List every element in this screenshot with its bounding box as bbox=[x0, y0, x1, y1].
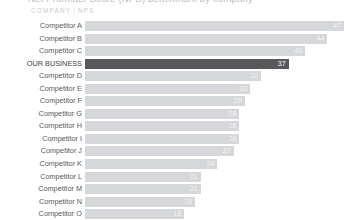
bar[interactable]: 24 bbox=[85, 159, 217, 169]
bar-row-label: Competitor K bbox=[0, 159, 85, 169]
bar[interactable]: 28 bbox=[85, 121, 239, 131]
bar-value-label: 21 bbox=[190, 184, 198, 194]
bar-row[interactable]: Competitor J27 bbox=[0, 146, 344, 156]
bar-value-label: 44 bbox=[316, 34, 324, 44]
bar-row[interactable]: Competitor B44 bbox=[0, 34, 344, 44]
bar-value-label: 18 bbox=[173, 209, 181, 219]
bar-highlight[interactable]: 37 bbox=[85, 59, 289, 69]
bar-value-label: 28 bbox=[228, 109, 236, 119]
bar[interactable]: 40 bbox=[85, 46, 305, 56]
bar-row[interactable]: Competitor I28 bbox=[0, 134, 344, 144]
nps-benchmark-chart: Net Promoter Score (NPS) benchmark by co… bbox=[0, 0, 344, 220]
bar-row[interactable]: Competitor A47 bbox=[0, 21, 344, 31]
column-header-company: COMPANY bbox=[31, 7, 71, 14]
bar[interactable]: 21 bbox=[85, 172, 201, 182]
bar[interactable]: 20 bbox=[85, 197, 195, 207]
bar-row-label: Competitor G bbox=[0, 109, 85, 119]
bar-row-label: Competitor N bbox=[0, 197, 85, 207]
bar-row-label: Competitor M bbox=[0, 184, 85, 194]
bar[interactable]: 30 bbox=[85, 84, 250, 94]
bar-track: 40 bbox=[85, 46, 344, 56]
bar-track: 21 bbox=[85, 172, 344, 182]
bar-track: 28 bbox=[85, 134, 344, 144]
bar[interactable]: 47 bbox=[85, 21, 344, 31]
bar[interactable]: 44 bbox=[85, 34, 327, 44]
bar-row-label: Competitor C bbox=[0, 46, 85, 56]
bar-row-label: Competitor F bbox=[0, 96, 85, 106]
bar-row-label: Competitor E bbox=[0, 84, 85, 94]
bar-value-label: 47 bbox=[333, 21, 341, 31]
bar-track: 24 bbox=[85, 159, 344, 169]
bar-row[interactable]: Competitor E30 bbox=[0, 84, 344, 94]
bar-track: 27 bbox=[85, 146, 344, 156]
column-header-nps: NPS bbox=[78, 7, 95, 14]
bar-value-label: 21 bbox=[190, 172, 198, 182]
bar[interactable]: 21 bbox=[85, 184, 201, 194]
bar-row-label: OUR BUSINESS bbox=[0, 59, 85, 69]
bar-value-label: 28 bbox=[228, 121, 236, 131]
bar-track: 30 bbox=[85, 84, 344, 94]
bar-track: 28 bbox=[85, 121, 344, 131]
bar-value-label: 32 bbox=[250, 71, 258, 81]
bar-track: 32 bbox=[85, 71, 344, 81]
bar-row-label: Competitor A bbox=[0, 21, 85, 31]
bar-row[interactable]: Competitor K24 bbox=[0, 159, 344, 169]
bar-row-label: Competitor O bbox=[0, 209, 85, 219]
bar-row-label: Competitor I bbox=[0, 134, 85, 144]
bar-value-label: 30 bbox=[239, 84, 247, 94]
bar-track: 21 bbox=[85, 184, 344, 194]
column-header: COMPANY|NPS bbox=[0, 7, 344, 18]
bar-row[interactable]: Competitor F29 bbox=[0, 96, 344, 106]
bar-row[interactable]: Competitor M21 bbox=[0, 184, 344, 194]
bar-row-label: Competitor L bbox=[0, 172, 85, 182]
bar-track: 44 bbox=[85, 34, 344, 44]
bar-row[interactable]: Competitor N20 bbox=[0, 197, 344, 207]
bar[interactable]: 28 bbox=[85, 109, 239, 119]
bar-row-label: Competitor J bbox=[0, 146, 85, 156]
bar-value-label: 40 bbox=[294, 46, 302, 56]
bar[interactable]: 27 bbox=[85, 146, 234, 156]
chart-title: Net Promoter Score (NPS) benchmark by co… bbox=[28, 0, 328, 4]
bar-row[interactable]: Competitor C40 bbox=[0, 46, 344, 56]
bar-track: 18 bbox=[85, 209, 344, 219]
bar-row[interactable]: Competitor L21 bbox=[0, 172, 344, 182]
bar-value-label: 37 bbox=[278, 59, 286, 69]
bar-row-list: Competitor A47Competitor B44Competitor C… bbox=[0, 21, 344, 220]
bar-row-label: Competitor D bbox=[0, 71, 85, 81]
bar-row-label: Competitor B bbox=[0, 34, 85, 44]
bar-track: 37 bbox=[85, 59, 344, 69]
bar-row[interactable]: Competitor G28 bbox=[0, 109, 344, 119]
bar-row[interactable]: OUR BUSINESS37 bbox=[0, 59, 344, 69]
bar-track: 28 bbox=[85, 109, 344, 119]
bar-track: 47 bbox=[85, 21, 344, 31]
bar[interactable]: 28 bbox=[85, 134, 239, 144]
bar-value-label: 28 bbox=[228, 134, 236, 144]
bar-value-label: 29 bbox=[234, 96, 242, 106]
bar-row[interactable]: Competitor H28 bbox=[0, 121, 344, 131]
bar[interactable]: 29 bbox=[85, 96, 245, 106]
bar-value-label: 20 bbox=[184, 197, 192, 207]
bar-value-label: 27 bbox=[223, 146, 231, 156]
bar-track: 29 bbox=[85, 96, 344, 106]
column-header-separator: | bbox=[71, 7, 78, 14]
bar-row[interactable]: Competitor D32 bbox=[0, 71, 344, 81]
bar-track: 20 bbox=[85, 197, 344, 207]
bar-row[interactable]: Competitor O18 bbox=[0, 209, 344, 219]
bar-value-label: 24 bbox=[206, 159, 214, 169]
bar[interactable]: 32 bbox=[85, 71, 261, 81]
bar-row-label: Competitor H bbox=[0, 121, 85, 131]
bar[interactable]: 18 bbox=[85, 209, 184, 219]
